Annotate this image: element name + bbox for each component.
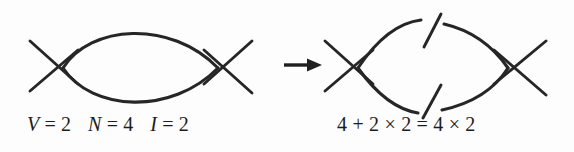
right-diagram-external-leg-upper-right (494, 41, 546, 84)
right-diagram-upper-cut-mark (424, 14, 441, 47)
left-diagram (30, 33, 252, 102)
right-diagram-external-leg-lower-right (494, 50, 546, 95)
right-diagram-lower-loop-line-right-segment (442, 68, 508, 110)
left-diagram-external-leg-upper-left (30, 41, 78, 84)
caption-left-value-i: 2 (179, 113, 189, 135)
right-diagram-upper-loop-line-left-segment (358, 20, 421, 68)
right-diagram-external-leg-lower-left (325, 50, 373, 91)
caption-left-value-n: 4 (123, 113, 133, 135)
caption-left-symbol-n: N (88, 113, 102, 135)
left-diagram-lower-loop-line (63, 68, 218, 102)
left-diagram-caption: V=2N=4I=2 (27, 113, 189, 136)
caption-left-value-v: 2 (61, 113, 71, 135)
left-diagram-external-leg-lower-right (204, 50, 252, 93)
right-diagram-caption: 4 + 2 × 2 = 4 × 2 (337, 113, 476, 136)
transformation-arrow (284, 59, 322, 72)
right-diagram-upper-loop-line-right-segment (444, 24, 508, 68)
caption-left-relation-v: = (44, 113, 55, 135)
caption-left-relation-n: = (107, 113, 118, 135)
left-diagram-upper-loop-line (63, 33, 218, 68)
feynman-diagram-figure: V=2N=4I=2 4 + 2 × 2 = 4 × 2 (0, 0, 574, 152)
caption-left-relation-i: = (162, 113, 173, 135)
right-diagram-external-leg-upper-left (325, 41, 373, 84)
arrow-head-icon (307, 59, 322, 72)
caption-left-symbol-i: I (150, 113, 157, 135)
right-diagram (325, 14, 546, 118)
right-diagram-lower-loop-line-left-segment (358, 68, 418, 113)
left-diagram-external-leg-lower-left (30, 50, 78, 91)
caption-left-symbol-v: V (27, 113, 39, 135)
